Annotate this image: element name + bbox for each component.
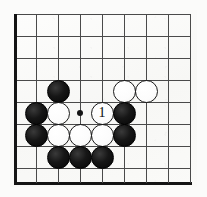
stone-white[interactable] [113,80,136,103]
board-stones: 1 [0,0,207,197]
stone-black[interactable] [25,124,48,147]
stone-black[interactable] [69,146,92,169]
stone-black[interactable] [91,146,114,169]
stone-black[interactable] [113,102,136,125]
stone-black[interactable] [47,146,70,169]
stone-black[interactable] [113,124,136,147]
go-board-diagram: 1 [0,0,207,197]
stone-white[interactable] [47,102,70,125]
stone-white[interactable] [135,80,158,103]
stone-white[interactable] [91,124,114,147]
stone-white[interactable] [47,124,70,147]
stone-black[interactable] [47,80,70,103]
move-number-label: 1 [99,106,106,120]
stone-white[interactable] [69,124,92,147]
stone-black[interactable] [25,102,48,125]
stone-white-move-1[interactable]: 1 [91,102,114,125]
